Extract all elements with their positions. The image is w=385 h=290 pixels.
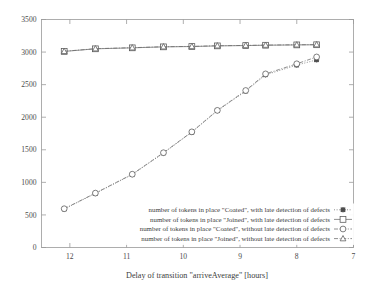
chart-container: 0500100015002000250030003500 121110987 n… <box>0 0 385 290</box>
y-tick-label: 3500 <box>21 15 36 24</box>
legend-entry: number of tokens in place "Joined", with… <box>150 216 352 223</box>
circle-marker-icon <box>294 61 300 67</box>
x-tick-label: 11 <box>123 252 131 261</box>
legend-entry-label: number of tokens in place "Joined", with… <box>150 216 330 223</box>
circle-marker-icon <box>214 107 220 113</box>
x-tick-label: 7 <box>352 252 356 261</box>
y-tick-label: 3000 <box>21 48 36 57</box>
square-marker-icon <box>340 217 346 223</box>
y-tick-label: 1500 <box>21 145 36 154</box>
chart-legend: number of tokens in place "Coated", with… <box>112 204 354 245</box>
legend-entry-label: number of tokens in place "Joined", with… <box>141 235 330 242</box>
y-tick-label: 2000 <box>21 113 36 122</box>
legend-entry: number of tokens in place "Coated", with… <box>140 225 352 232</box>
circle-marker-icon <box>314 54 320 60</box>
x-tick-label: 12 <box>66 252 74 261</box>
circle-marker-icon <box>161 150 167 156</box>
circle-marker-icon <box>263 71 269 77</box>
y-tick-label: 0 <box>33 243 37 252</box>
x-tick-label: 9 <box>238 252 242 261</box>
circle-marker-icon <box>61 206 67 212</box>
circle-marker-icon <box>340 226 346 232</box>
x-tick-label: 8 <box>295 252 299 261</box>
star-marker-icon <box>340 207 345 212</box>
circle-marker-icon <box>243 88 249 94</box>
x-tick-label: 10 <box>180 252 188 261</box>
data-series-group <box>61 42 319 212</box>
circle-marker-icon <box>92 190 98 196</box>
y-tick-label: 1000 <box>21 178 36 187</box>
line-chart-plot: 0500100015002000250030003500 121110987 n… <box>0 0 385 290</box>
circle-marker-icon <box>189 129 195 135</box>
legend-entry: number of tokens in place "Coated", with… <box>149 206 352 213</box>
legend-entry: number of tokens in place "Joined", with… <box>141 235 352 242</box>
y-tick-label: 500 <box>25 211 37 220</box>
y-tick-label: 2500 <box>21 80 36 89</box>
x-axis-title: Delay of transition "arriveAverage" [hou… <box>126 271 268 280</box>
legend-entry-label: number of tokens in place "Coated", with… <box>149 206 331 213</box>
circle-marker-icon <box>129 171 135 177</box>
series-2 <box>61 54 319 212</box>
legend-entry-label: number of tokens in place "Coated", with… <box>140 225 331 232</box>
